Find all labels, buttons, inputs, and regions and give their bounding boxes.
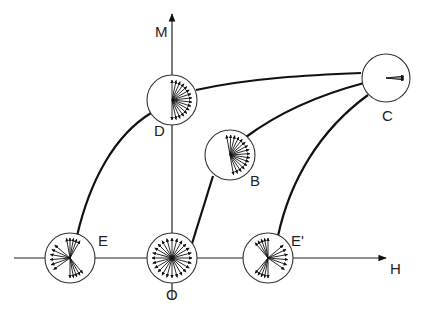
label-o: O [166, 286, 178, 303]
magnetization-diagram: M H D B C O E E' [0, 0, 425, 310]
h-axis-label: H [390, 260, 401, 277]
curve-o-b [190, 176, 213, 250]
label-d: D [154, 122, 165, 139]
curve-d-c [196, 73, 361, 90]
curve-e-d [77, 113, 151, 236]
label-c: C [382, 107, 393, 124]
curve-eprime-c [278, 95, 368, 236]
label-eprime: E' [291, 232, 304, 249]
domain-arrows-o [152, 238, 192, 278]
label-b: B [250, 172, 260, 189]
label-e: E [98, 232, 108, 249]
m-axis-label: M [155, 23, 168, 40]
curve-b-c [246, 83, 364, 137]
